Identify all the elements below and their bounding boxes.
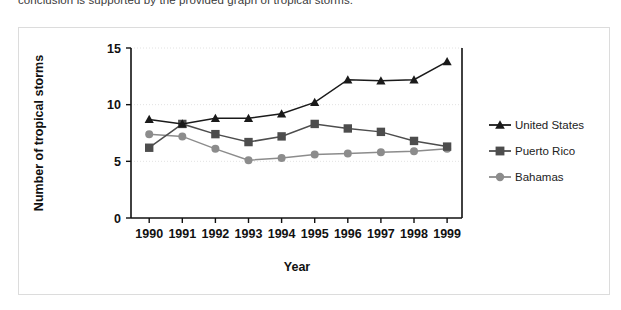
legend-item-puerto-rico: Puerto Rico [489, 145, 575, 157]
x-tick-label: 1997 [367, 227, 395, 241]
x-tick-label: 1990 [135, 227, 163, 241]
data-point-triangle [310, 98, 319, 106]
series-line [149, 124, 447, 148]
data-point-circle [344, 149, 352, 157]
legend-item-bahamas: Bahamas [489, 171, 564, 183]
chart-legend: United StatesPuerto RicoBahamas [489, 119, 584, 183]
data-point-square [377, 128, 385, 136]
data-point-circle [410, 147, 418, 155]
legend-label: United States [515, 119, 584, 131]
data-point-circle [278, 154, 286, 162]
legend-label: Puerto Rico [515, 145, 575, 157]
legend-label: Bahamas [515, 171, 564, 183]
y-tick-label: 10 [107, 98, 121, 112]
data-point-square [244, 138, 252, 146]
data-point-circle [178, 132, 186, 140]
series-bahamas [145, 130, 451, 164]
data-point-circle [311, 151, 319, 159]
data-point-triangle [443, 57, 452, 65]
intro-text: conclusion is supported by the provided … [18, 0, 353, 6]
series-lines-layer [145, 57, 452, 164]
data-point-square [277, 132, 285, 140]
data-point-square [443, 142, 451, 150]
chart-frame: 051015 199019911992199319941995199619971… [18, 27, 610, 295]
x-tick-label: 1998 [400, 227, 428, 241]
x-tick-label: 1993 [235, 227, 263, 241]
x-axis-title: Year [284, 260, 311, 274]
series-puerto-rico [145, 120, 451, 152]
data-point-circle [211, 145, 219, 153]
legend-item-united-states: United States [489, 119, 584, 131]
y-tick-label: 15 [107, 42, 121, 56]
data-point-circle [145, 130, 153, 138]
data-point-square [211, 130, 219, 138]
x-tick-label: 1992 [201, 227, 229, 241]
data-point-triangle [145, 115, 154, 123]
series-united-states [145, 57, 452, 128]
x-tick-label: 1999 [433, 227, 461, 241]
data-point-square [311, 120, 319, 128]
data-point-square [145, 144, 153, 152]
data-point-circle [496, 173, 504, 181]
x-axis-ticks: 1990199119921993199419951996199719981999 [135, 218, 461, 241]
data-point-circle [245, 156, 253, 164]
x-tick-label: 1996 [334, 227, 362, 241]
y-tick-label: 5 [114, 155, 121, 169]
y-axis-title: Number of tropical storms [32, 55, 46, 211]
data-point-circle [377, 148, 385, 156]
data-point-square [410, 137, 418, 145]
data-point-square [496, 147, 505, 156]
x-tick-label: 1994 [268, 227, 296, 241]
y-axis-ticks: 051015 [107, 42, 131, 226]
y-tick-label: 0 [114, 212, 121, 226]
x-tick-label: 1995 [301, 227, 329, 241]
tropical-storms-line-chart: 051015 199019911992199319941995199619971… [19, 28, 609, 294]
series-line [149, 62, 447, 124]
x-tick-label: 1991 [168, 227, 196, 241]
data-point-square [344, 124, 352, 132]
